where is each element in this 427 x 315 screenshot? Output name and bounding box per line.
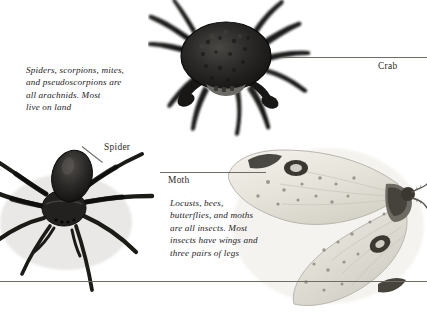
arachnid-caption-text: Spiders, scorpions, mites, and pseudosco… <box>26 64 161 114</box>
label-crab: Crab <box>378 61 397 72</box>
crab-photograph <box>148 0 326 142</box>
insect-caption-text: Locusts, bees, butterflies, and moths ar… <box>170 197 290 259</box>
label-moth: Moth <box>168 175 190 186</box>
illustrated-spread: Crab Spider Moth Spiders, scorpions, mit… <box>0 0 427 315</box>
bottom-horizontal-rule <box>0 281 427 282</box>
label-spider: Spider <box>104 142 130 153</box>
moth-leader-line <box>160 172 266 173</box>
crab-leader-line <box>281 57 427 58</box>
